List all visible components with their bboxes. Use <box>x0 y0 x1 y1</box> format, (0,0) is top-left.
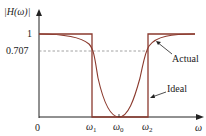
ideal-arrow-icon <box>150 94 155 98</box>
band-stop-filter-chart: |H(ω)| 1 0.707 0 ω1 ω0 ω2 ω Actual Ideal <box>0 0 206 136</box>
annotation-actual: Actual <box>172 53 199 64</box>
y-tick-1: 1 <box>27 28 32 39</box>
annotation-ideal: Ideal <box>167 83 187 94</box>
x-tick-omega2: ω2 <box>142 121 153 134</box>
x-tick-omega1: ω1 <box>86 121 97 134</box>
x-axis-arrow-icon <box>196 114 204 120</box>
ideal-curve <box>39 34 195 117</box>
actual-curve <box>39 34 195 117</box>
y-axis-label: |H(ω)| <box>4 6 30 18</box>
y-tick-0707: 0.707 <box>6 45 29 56</box>
actual-pointer <box>157 42 172 54</box>
x-tick-0: 0 <box>35 122 40 133</box>
x-axis-label: ω <box>195 122 202 133</box>
y-axis-arrow-icon <box>36 9 42 16</box>
axes <box>36 9 204 120</box>
x-tick-omega0: ω0 <box>113 121 124 134</box>
